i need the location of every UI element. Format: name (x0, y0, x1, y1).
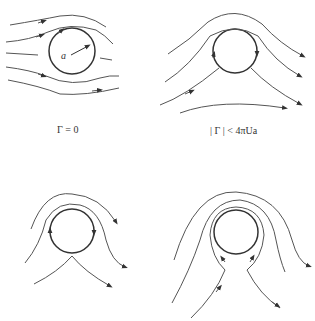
panel-critical-circulation (25, 194, 125, 286)
streamline (6, 67, 119, 83)
streamline (168, 13, 303, 56)
streamline (10, 15, 106, 27)
panel-zero-circulation: a Γ = 0 (6, 15, 119, 135)
caption-zero-circulation: Γ = 0 (57, 124, 78, 135)
streamline-stagnation-out (100, 58, 112, 60)
streamline (172, 200, 285, 303)
streamline-stagnation-in (34, 256, 72, 284)
streamline (180, 104, 285, 113)
streamline (6, 26, 113, 44)
flow-diagram: a Γ = 0 | Γ | < 4πUa (0, 0, 315, 321)
radius-label: a (61, 50, 66, 61)
streamline (8, 80, 119, 94)
streamline-stagnation-in (6, 53, 38, 55)
cylinder (50, 209, 94, 253)
streamline-crossing (191, 207, 280, 318)
cylinder (213, 29, 257, 73)
streamline-stagnation-in (160, 68, 219, 105)
panel-supercritical-circulation (172, 192, 309, 318)
streamline (31, 194, 116, 229)
streamline-stagnation-out (72, 256, 110, 286)
panel-subcritical-circulation: | Γ | < 4πUa (160, 13, 303, 136)
cylinder (49, 28, 95, 74)
streamline-stagnation-out (251, 68, 300, 104)
radius-arrow (71, 46, 88, 55)
caption-subcritical-circulation: | Γ | < 4πUa (210, 125, 258, 136)
streamline (165, 29, 300, 82)
cylinder (214, 210, 258, 254)
